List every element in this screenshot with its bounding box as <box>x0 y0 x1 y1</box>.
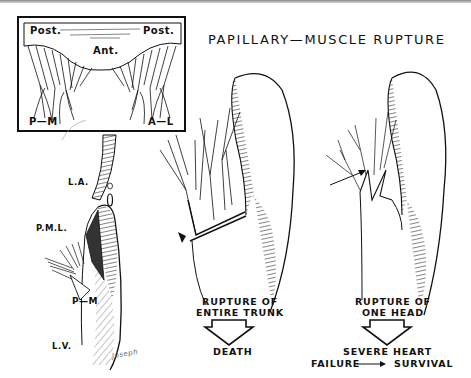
outcome-severe-heart: SEVERE HEART <box>343 346 432 357</box>
outcome-failure: FAILURE <box>311 358 360 369</box>
inset-label-pm: P—M <box>29 116 58 127</box>
figure-title: PAPILLARY—MUSCLE RUPTURE <box>208 32 446 47</box>
caption-middle: RUPTURE OF ENTIRE TRUNK <box>196 296 284 318</box>
caption-right-line1: RUPTURE OF <box>355 296 431 307</box>
inset-label-ant: Ant. <box>93 45 118 56</box>
outcome-death: DEATH <box>213 346 252 357</box>
illustration <box>0 0 471 378</box>
inset-label-post-left: Post. <box>30 25 61 36</box>
label-posterior-mitral-leaflet: P.M.L. <box>36 223 67 233</box>
caption-middle-line1: RUPTURE OF <box>196 296 284 307</box>
label-left-ventricle: L.V. <box>52 341 71 351</box>
down-arrow-survival <box>363 320 411 345</box>
right-heart-diagram <box>326 72 446 315</box>
label-left-atrium: L.A. <box>68 177 89 187</box>
outcome-survival: SURVIVAL <box>394 358 453 369</box>
left-heart-diagram <box>45 120 121 370</box>
down-arrow-death <box>205 320 253 345</box>
inset-label-post-right: Post. <box>143 25 174 36</box>
caption-right-line2: ONE HEAD <box>355 307 431 318</box>
caption-middle-line2: ENTIRE TRUNK <box>196 307 284 318</box>
caption-right: RUPTURE OF ONE HEAD <box>355 296 431 318</box>
inset-label-al: A—L <box>148 116 174 127</box>
label-papillary-muscle: P—M <box>72 296 98 306</box>
figure: PAPILLARY—MUSCLE RUPTURE Post. Post. Ant… <box>0 0 471 378</box>
